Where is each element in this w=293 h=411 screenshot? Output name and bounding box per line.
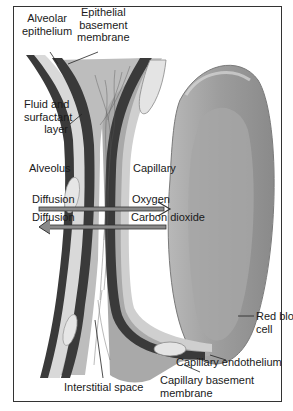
label-line: membrane: [77, 31, 130, 44]
label-line: Fluid and: [24, 98, 68, 111]
label-line: membrane: [160, 387, 254, 400]
label-line: layer: [24, 123, 68, 136]
label-alveolar-epithelium: Alveolar epithelium: [22, 12, 72, 37]
label-line: Red blood: [256, 310, 293, 323]
label-capillary-endothelium: Capillary endothelium: [176, 356, 282, 369]
label-diffusion-oxygen: Diffusion: [32, 193, 75, 206]
label-red-blood-cell: Red blood cell: [256, 310, 293, 335]
label-carbon-dioxide: Carbon dioxide: [131, 211, 205, 224]
label-line: Capillary basement: [160, 374, 254, 387]
label-line: surfactant: [24, 111, 68, 124]
alveolar-capillary-illustration: [0, 0, 293, 411]
label-line: Epithelial: [77, 6, 130, 19]
label-interstitial-space: Interstitial space: [64, 381, 143, 394]
label-epithelial-basement-membrane: Epithelial basement membrane: [77, 6, 130, 44]
label-diffusion-co2: Diffusion: [32, 211, 75, 224]
label-line: epithelium: [22, 25, 72, 38]
label-line: cell: [256, 323, 293, 336]
label-fluid-surfactant-layer: Fluid and surfactant layer: [24, 98, 68, 136]
label-line: basement: [77, 19, 130, 32]
label-oxygen: Oxygen: [132, 193, 170, 206]
label-capillary: Capillary: [133, 162, 176, 175]
label-alveolus: Alveolus: [29, 162, 71, 175]
label-line: Alveolar: [22, 12, 72, 25]
label-capillary-basement-membrane: Capillary basement membrane: [160, 374, 254, 399]
